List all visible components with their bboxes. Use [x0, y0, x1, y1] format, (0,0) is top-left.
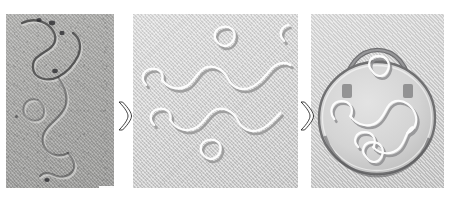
- panel-label-a: (a): [99, 186, 114, 188]
- chevron-right-icon: [116, 101, 132, 131]
- dna-strand-trace-b: [133, 14, 298, 188]
- micrograph-panel-a: (a): [6, 14, 114, 188]
- dna-strand-trace-a: [6, 14, 114, 188]
- arrow-b-to-c: [298, 101, 314, 131]
- cropped-header-text: [2, 0, 80, 9]
- micrograph-panel-b: (b): [133, 14, 298, 188]
- figure-root: (a): [0, 0, 449, 201]
- circular-assembly-trace-c: [311, 14, 444, 188]
- chevron-right-icon: [298, 101, 314, 131]
- arrow-a-to-b: [116, 101, 132, 131]
- micrograph-panel-c: (c): [311, 14, 444, 188]
